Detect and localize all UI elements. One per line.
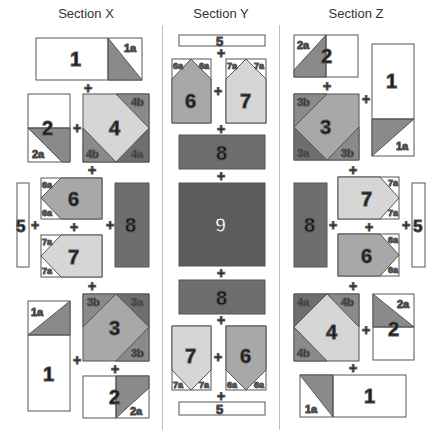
plus-sign: + [73, 352, 81, 368]
label-3b: 3b [87, 296, 100, 308]
label-2: 2 [321, 45, 332, 67]
plus-sign: + [106, 217, 114, 233]
label-8: 8 [216, 142, 227, 164]
label-5: 5 [413, 217, 422, 236]
label-6a: 6a [388, 265, 399, 275]
label-1: 1 [70, 48, 81, 70]
section-x: 1 1a + 2 2a + 4 4b 4b 4a + 5 + [16, 38, 149, 418]
plus-sign: + [365, 219, 373, 235]
quilt-assembly-diagram: 1 1a + 2 2a + 4 4b 4b 4a + 5 + [0, 0, 432, 435]
plus-sign: + [362, 91, 370, 107]
label-1a: 1a [396, 140, 409, 152]
label-5: 5 [16, 217, 25, 236]
plus-sign: + [217, 265, 225, 281]
label-6: 6 [185, 90, 196, 112]
label-6a: 6a [254, 380, 265, 390]
plus-sign: + [31, 217, 39, 233]
label-7a: 7a [254, 61, 265, 71]
label-6: 6 [361, 245, 372, 267]
plus-sign: + [402, 217, 410, 233]
label-8: 8 [216, 287, 227, 309]
label-4: 4 [326, 321, 338, 343]
label-5: 5 [216, 402, 223, 417]
label-3: 3 [320, 116, 331, 138]
plus-sign: + [349, 278, 357, 294]
plus-sign: + [362, 322, 370, 338]
plus-sign: + [217, 45, 225, 61]
label-2a: 2a [32, 148, 45, 160]
plus-sign: + [73, 120, 81, 136]
label-7a: 7a [42, 237, 53, 247]
label-6a: 6a [388, 235, 399, 245]
label-4b: 4b [86, 148, 99, 160]
plus-sign: + [88, 278, 96, 294]
label-1a: 1a [124, 42, 137, 54]
plus-sign: + [323, 78, 331, 94]
label-1a: 1a [31, 306, 44, 318]
label-7: 7 [361, 188, 372, 210]
label-3b: 3b [131, 347, 144, 359]
plus-sign: + [349, 360, 357, 376]
plus-sign: + [70, 219, 78, 235]
label-7a: 7a [199, 380, 210, 390]
plus-sign: + [214, 349, 222, 365]
label-4b: 4b [297, 347, 310, 359]
label-3b: 3b [297, 96, 310, 108]
plus-sign: + [217, 312, 225, 328]
label-7: 7 [185, 345, 196, 367]
label-6a: 6a [42, 208, 53, 218]
label-7: 7 [68, 246, 79, 268]
label-6: 6 [240, 345, 251, 367]
plus-sign: + [214, 83, 222, 99]
label-2a: 2a [297, 39, 310, 51]
label-8: 8 [125, 214, 136, 236]
label-2a: 2a [397, 298, 410, 310]
label-6a: 6a [199, 61, 210, 71]
label-6a: 6a [42, 180, 53, 190]
label-2: 2 [109, 386, 120, 408]
label-3b: 3b [341, 147, 354, 159]
label-7a: 7a [42, 266, 53, 276]
label-6a: 6a [173, 61, 184, 71]
label-6a: 6a [227, 380, 238, 390]
label-7a: 7a [388, 208, 399, 218]
label-1: 1 [364, 385, 375, 407]
label-8: 8 [304, 214, 315, 236]
label-3a: 3a [297, 147, 310, 159]
label-4a: 4a [131, 148, 144, 160]
label-2: 2 [388, 318, 399, 340]
label-4b: 4b [341, 296, 354, 308]
label-7: 7 [240, 90, 251, 112]
section-y: 5 + 6 6a 6a + 7 7a 7a + 8 + 9 + 8 + [172, 34, 266, 417]
label-4a: 4a [297, 296, 310, 308]
plus-sign: + [217, 168, 225, 184]
label-1: 1 [386, 70, 397, 92]
label-7a: 7a [227, 61, 238, 71]
label-3: 3 [109, 317, 120, 339]
label-7a: 7a [173, 380, 184, 390]
label-4: 4 [109, 117, 121, 139]
label-2a: 2a [130, 405, 143, 417]
label-6: 6 [68, 188, 79, 210]
plus-sign: + [88, 162, 96, 178]
label-9: 9 [215, 214, 226, 236]
label-7a: 7a [388, 178, 399, 188]
label-2: 2 [42, 117, 53, 139]
label-4b: 4b [131, 96, 144, 108]
label-1a: 1a [305, 403, 318, 415]
plus-sign: + [349, 162, 357, 178]
label-3a: 3a [131, 296, 144, 308]
section-z: 2a 2 + 1 1a + 3 3b 3a 3b + 8 + [294, 35, 425, 417]
plus-sign: + [329, 217, 337, 233]
label-1: 1 [43, 363, 54, 385]
plus-sign: + [111, 361, 119, 377]
